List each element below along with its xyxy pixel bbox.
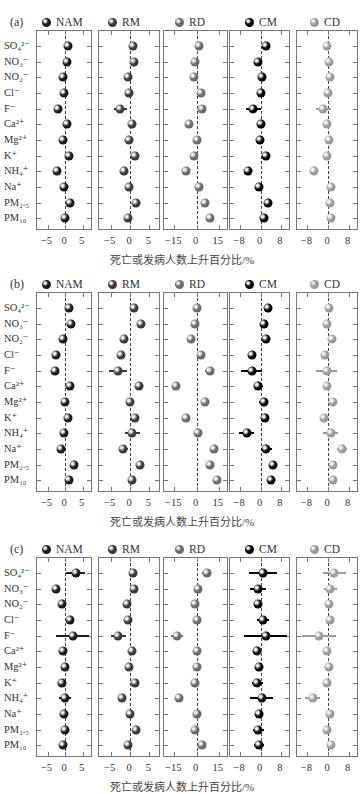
tick: [353, 449, 357, 450]
data-point: [269, 460, 278, 469]
tick: [230, 386, 234, 387]
data-point: [326, 429, 335, 438]
tick: [353, 187, 357, 188]
tick: [223, 418, 227, 419]
data-point: [261, 335, 270, 344]
tick: [99, 109, 103, 110]
tick: [307, 293, 308, 297]
tick: [37, 93, 41, 94]
row-label: K⁺: [4, 149, 34, 161]
legend-marker-icon: [310, 545, 319, 554]
data-point: [253, 57, 262, 66]
data-point: [324, 88, 333, 97]
tick: [149, 31, 150, 35]
tick: [297, 480, 301, 481]
tick: [164, 62, 168, 63]
tick: [219, 293, 220, 297]
tick: [164, 698, 168, 699]
tick: [37, 308, 41, 309]
tick: [111, 31, 112, 35]
data-point: [61, 694, 70, 703]
tick: [87, 339, 91, 340]
tick: [155, 620, 159, 621]
tick: [99, 171, 103, 172]
tick: [99, 449, 103, 450]
tick: [174, 487, 175, 491]
data-point: [242, 429, 251, 438]
tick: [297, 730, 301, 731]
tick: [164, 339, 168, 340]
tick: [164, 651, 168, 652]
tick: [223, 714, 227, 715]
data-point: [257, 694, 266, 703]
data-point: [119, 444, 128, 453]
tick: [353, 371, 357, 372]
tick: [261, 293, 262, 297]
tick: [353, 480, 357, 481]
tick: [197, 487, 198, 491]
tick: [297, 651, 301, 652]
tick: [99, 386, 103, 387]
data-point: [124, 214, 133, 223]
tick: [155, 308, 159, 309]
data-point: [189, 73, 198, 82]
data-point: [122, 600, 131, 609]
data-point: [132, 725, 141, 734]
x-tick-label: 0: [193, 235, 198, 246]
tick: [230, 745, 234, 746]
data-point: [201, 397, 210, 406]
tick: [240, 558, 241, 562]
data-point: [213, 476, 222, 485]
legend-marker-icon: [175, 280, 184, 289]
tick: [285, 339, 289, 340]
tick: [297, 386, 301, 387]
tick: [230, 433, 234, 434]
tick: [328, 225, 329, 229]
data-point: [62, 120, 71, 129]
tick: [285, 402, 289, 403]
row-label: Cl⁻: [4, 348, 34, 360]
tick: [99, 124, 103, 125]
legend-label: NAM: [56, 16, 83, 28]
tick: [87, 589, 91, 590]
data-point: [314, 631, 323, 640]
tick: [99, 698, 103, 699]
legend-item-rd: RD: [175, 278, 205, 290]
tick: [99, 46, 103, 47]
tick: [349, 31, 350, 35]
tick: [285, 714, 289, 715]
plot-area-cd: [296, 292, 358, 492]
tick: [297, 77, 301, 78]
tick: [297, 355, 301, 356]
tick: [353, 124, 357, 125]
tick: [297, 140, 301, 141]
tick: [155, 698, 159, 699]
tick: [230, 465, 234, 466]
tick: [223, 745, 227, 746]
tick: [223, 465, 227, 466]
tick: [65, 31, 66, 35]
tick: [285, 589, 289, 590]
plot-area-rd: [163, 30, 228, 230]
legend-label: NAM: [56, 543, 83, 555]
data-point: [53, 104, 62, 113]
data-point: [125, 662, 134, 671]
tick: [37, 667, 41, 668]
tick: [349, 752, 350, 756]
tick: [219, 558, 220, 562]
tick: [111, 558, 112, 562]
plot-area-nam: [36, 30, 92, 230]
tick: [155, 589, 159, 590]
tick: [223, 93, 227, 94]
data-point: [254, 600, 263, 609]
plot-area-cm: [229, 557, 290, 757]
panel-1: (b)SO₄²⁻NO₃⁻NO₂⁻Cl⁻F⁻Ca²⁺Mg²⁺K⁺NH₄⁺Na⁺PM…: [0, 262, 364, 524]
tick: [87, 449, 91, 450]
x-tick-label: 0: [193, 762, 198, 773]
x-tick-label: 8: [345, 762, 350, 773]
tick: [297, 171, 301, 172]
data-point: [128, 429, 137, 438]
tick: [285, 386, 289, 387]
legend-label: NAM: [56, 278, 83, 290]
data-point: [57, 678, 66, 687]
